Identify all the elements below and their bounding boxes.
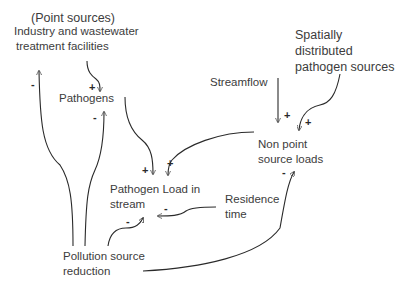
pollution-reduction-line-2: reduction: [63, 264, 145, 279]
node-spatial-sources: Spatially distributed pathogen sources: [295, 27, 394, 75]
node-residence-time: Residence time: [225, 192, 279, 222]
sign-spatial-to-nonpoint: +: [305, 117, 311, 128]
link-pathogens-to-load: [125, 97, 153, 174]
node-point-sources-line3: treatment facilities: [16, 39, 109, 53]
causal-loop-diagram: (Point sources) Industry and wastewater …: [0, 0, 408, 291]
node-non-point: Non point source loads: [258, 137, 323, 167]
sign-pollution-to-pathogens: -: [93, 112, 97, 123]
sign-pollution-to-load: -: [126, 216, 130, 227]
spatial-sources-line-3: pathogen sources: [295, 59, 394, 75]
pathogen-load-line-1: Pathogen Load in: [110, 182, 200, 197]
node-point-sources: (Point sources) Industry and wastewater: [14, 11, 132, 38]
node-pollution-reduction: Pollution source reduction: [63, 249, 145, 279]
node-streamflow: Streamflow: [210, 75, 268, 89]
sign-nonpoint-to-load: +: [167, 158, 173, 169]
spatial-sources-line-2: distributed: [295, 43, 394, 59]
link-pollution-to-pathogens: [85, 112, 104, 246]
residence-time-line-2: time: [225, 207, 279, 222]
spatial-sources-line-1: Spatially: [295, 27, 394, 43]
sign-pollution-to-nonpoint: -: [282, 167, 286, 178]
node-pathogen-load: Pathogen Load in stream: [110, 182, 200, 212]
pathogens-label: Pathogens: [59, 91, 114, 105]
sign-residence-to-load: -: [164, 203, 168, 214]
non-point-line-2: source loads: [258, 152, 323, 167]
pathogen-load-line-2: stream: [110, 197, 200, 212]
sign-streamflow-to-nonpoint: +: [284, 110, 290, 121]
link-nonpoint-to-load: [168, 132, 254, 175]
non-point-line-1: Non point: [258, 137, 323, 152]
point-sources-title: (Point sources): [14, 11, 132, 25]
node-pathogens: Pathogens: [59, 91, 114, 105]
streamflow-label: Streamflow: [210, 75, 268, 89]
residence-time-line-1: Residence: [225, 192, 279, 207]
pollution-reduction-line-1: Pollution source: [63, 249, 145, 264]
point-sources-line-3: treatment facilities: [16, 39, 109, 53]
sign-point-sources-to-pathogens: +: [89, 82, 95, 93]
sign-pollution-to-point-sources: -: [31, 79, 35, 90]
sign-pathogens-to-load: +: [142, 165, 148, 176]
point-sources-line-2: Industry and wastewater: [14, 24, 132, 38]
